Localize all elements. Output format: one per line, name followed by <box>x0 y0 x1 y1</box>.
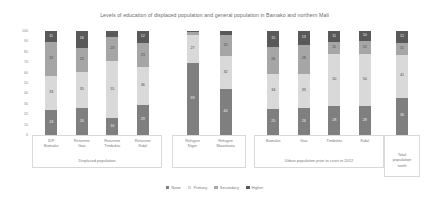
chart-legend: NonePrimarySecondaryHigher <box>0 185 429 190</box>
bar-gao[interactable]: 13283326 <box>298 31 310 135</box>
legend-label: Secondary <box>220 185 239 190</box>
bar-returnee-kidal[interactable]: 12233629 <box>137 31 149 135</box>
bar-segment-higher: 10 <box>359 31 371 41</box>
bar-segment-primary: 36 <box>137 67 149 104</box>
bar-refugee-mauritania[interactable]: 203244 <box>220 31 232 135</box>
bar-returnee-gao[interactable]: 16233526 <box>76 31 88 135</box>
bar-segment-primary: 33 <box>298 74 310 108</box>
bar-segment-higher: 12 <box>137 31 149 43</box>
bar-segment-primary: 33 <box>45 76 57 110</box>
bar-segment-primary: 41 <box>396 55 408 98</box>
bar-segment-none: 25 <box>267 109 279 135</box>
panel-label: Displaced population <box>32 158 162 163</box>
legend-swatch-icon <box>214 186 218 190</box>
bar-total-population-north[interactable]: 12114136 <box>396 31 408 135</box>
y-axis: 0102030405060708090100 <box>16 31 29 135</box>
bar-segment-higher: 13 <box>298 31 310 45</box>
bar-idp-bamako[interactable]: 11323324 <box>45 31 57 135</box>
bar-segment-higher: 15 <box>267 31 279 47</box>
legend-label: Primary <box>193 185 207 190</box>
bar-segment-primary: 34 <box>267 74 279 109</box>
bar-segment-primary: 32 <box>220 56 232 89</box>
bar-segment-secondary: 11 <box>328 42 340 53</box>
y-axis-tick: 20 <box>24 112 28 116</box>
bar-segment-none: 28 <box>359 106 371 135</box>
bar-segment-none: 26 <box>298 108 310 135</box>
y-axis-tick: 100 <box>22 29 28 33</box>
bar-segment-none: 16 <box>106 118 118 135</box>
bar-segment-secondary: 26 <box>267 47 279 74</box>
bar-bamako[interactable]: 15263425 <box>267 31 279 135</box>
bar-returnee-timbuktu[interactable]: 235516 <box>106 31 118 135</box>
bar-segment-primary: 50 <box>328 54 340 106</box>
bar-segment-secondary: 32 <box>45 42 57 75</box>
bar-segment-higher: 16 <box>76 31 88 48</box>
bar-kidal[interactable]: 10125028 <box>359 31 371 135</box>
y-axis-tick: 30 <box>24 102 28 106</box>
bar-segment-none: 69 <box>187 63 199 135</box>
legend-item-primary[interactable]: Primary <box>188 185 207 190</box>
legend-item-none[interactable]: None <box>166 185 181 190</box>
legend-label: Higher <box>252 185 264 190</box>
y-axis-tick: 10 <box>24 123 28 127</box>
chart-container: Levels of education of displaced populat… <box>0 0 429 203</box>
bar-group: 113233241623352623551612233629 <box>36 31 158 135</box>
bar-segment-primary: 50 <box>359 54 371 106</box>
legend-item-secondary[interactable]: Secondary <box>214 185 239 190</box>
bar-segment-secondary: 23 <box>137 43 149 67</box>
panel-label: Urban population prior to crisis in 2012 <box>254 158 384 163</box>
bar-segment-secondary: 11 <box>396 43 408 54</box>
y-axis-tick: 40 <box>24 91 28 95</box>
legend-label: None <box>171 185 181 190</box>
y-axis-tick: 50 <box>24 81 28 85</box>
bar-segment-secondary: 23 <box>76 48 88 72</box>
bar-group: 12114136 <box>388 31 416 135</box>
bar-segment-secondary: 12 <box>359 41 371 53</box>
y-axis-tick: 90 <box>24 39 28 43</box>
bar-segment-primary: 55 <box>106 61 118 118</box>
bar-segment-higher: 12 <box>396 31 408 43</box>
panel-box <box>172 135 246 168</box>
bar-segment-none: 44 <box>220 89 232 135</box>
legend-swatch-icon <box>188 186 192 190</box>
bar-group: 2769203244 <box>176 31 242 135</box>
legend-item-higher[interactable]: Higher <box>246 185 263 190</box>
legend-swatch-icon <box>246 186 250 190</box>
bar-segment-secondary: 20 <box>220 35 232 56</box>
bar-segment-none: 29 <box>137 105 149 135</box>
bar-segment-none: 36 <box>396 98 408 135</box>
bar-group: 15263425132833261111502810125028 <box>258 31 380 135</box>
bar-segment-none: 28 <box>328 106 340 135</box>
chart-title: Levels of education of displaced populat… <box>0 12 429 18</box>
bar-segment-none: 24 <box>45 110 57 135</box>
bars-area: 1132332416233526235516122336292769203244… <box>30 31 416 135</box>
bar-timbuktu[interactable]: 11115028 <box>328 31 340 135</box>
legend-swatch-icon <box>166 186 170 190</box>
y-axis-tick: 80 <box>24 50 28 54</box>
bar-segment-none: 26 <box>76 108 88 135</box>
bar-segment-primary: 27 <box>187 35 199 63</box>
bar-segment-primary: 35 <box>76 72 88 108</box>
plot-area: 0102030405060708090100 11323324162335262… <box>16 31 416 135</box>
bar-segment-secondary: 28 <box>298 45 310 74</box>
bar-refugee-niger[interactable]: 2769 <box>187 31 199 135</box>
y-axis-tick: 70 <box>24 60 28 64</box>
bar-segment-secondary: 23 <box>106 37 118 61</box>
bar-segment-higher: 11 <box>328 31 340 42</box>
bar-segment-higher: 11 <box>45 31 57 42</box>
y-axis-tick: 60 <box>24 71 28 75</box>
panel-label: Total population north <box>385 152 419 168</box>
y-axis-tick: 0 <box>26 133 28 137</box>
